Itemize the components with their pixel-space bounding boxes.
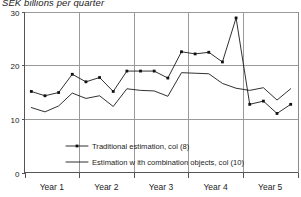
- series-marker: [289, 103, 292, 106]
- chart-legend: Traditional estimation, col (8)Estimatio…: [66, 142, 244, 167]
- y-axis-tick-label: 30: [11, 9, 20, 18]
- x-axis-tick-labels: Year 1Year 2Year 3Year 4Year 5: [40, 182, 283, 192]
- series-marker: [276, 112, 279, 115]
- series-marker: [30, 90, 33, 93]
- series-marker: [112, 90, 115, 93]
- series-marker: [44, 94, 47, 97]
- series-marker: [125, 70, 128, 73]
- series-marker: [98, 76, 101, 79]
- x-axis-tick-label: Year 3: [149, 182, 174, 192]
- series-marker: [180, 50, 183, 53]
- y-axis-tick-label: 20: [11, 62, 20, 71]
- series-marker: [166, 77, 169, 80]
- legend-swatch-marker-1: [76, 145, 79, 148]
- series-marker: [207, 51, 210, 54]
- series-marker: [139, 70, 142, 73]
- series-marker: [262, 100, 265, 103]
- series-marker: [71, 73, 74, 76]
- legend-label-2: Estimation w ith combination objects, co…: [92, 158, 244, 167]
- series-marker: [85, 80, 88, 83]
- axes-group: [22, 12, 299, 178]
- series-marker: [153, 70, 156, 73]
- chart-container: SEK billions per quarter 0102030 Year 1Y…: [0, 0, 301, 197]
- y-axis-tick-label: 0: [15, 170, 20, 179]
- x-axis-tick-label: Year 1: [40, 182, 65, 192]
- series-marker: [57, 91, 60, 94]
- series-marker: [221, 61, 224, 64]
- y-axis-tick-labels: 0102030: [11, 9, 20, 179]
- x-axis-tick-label: Year 5: [258, 182, 283, 192]
- series-marker: [248, 103, 251, 106]
- x-axis-tick-label: Year 2: [94, 182, 119, 192]
- x-axis-tick-label: Year 4: [203, 182, 228, 192]
- y-axis-tick-label: 10: [11, 116, 20, 125]
- series-line-2: [31, 73, 290, 112]
- series-marker: [235, 17, 238, 20]
- chart-plot-area: 0102030 Year 1Year 2Year 3Year 4Year 5 T…: [0, 0, 301, 197]
- legend-label-1: Traditional estimation, col (8): [92, 142, 190, 151]
- series-marker: [194, 53, 197, 56]
